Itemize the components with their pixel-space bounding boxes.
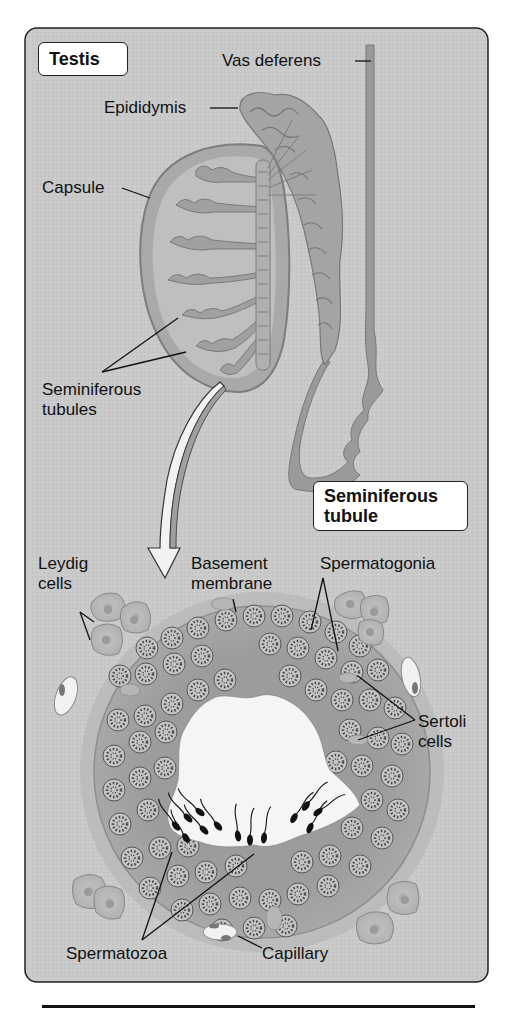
label-capsule: Capsule <box>42 178 104 198</box>
label-seminiferous-tubules: Seminiferous tubules <box>42 380 141 420</box>
label-leydig-cells: Leydig cells <box>38 554 88 594</box>
testis-title: Testis <box>49 49 100 69</box>
label-sertoli-cells: Sertoli cells <box>418 712 466 752</box>
testis-title-box: Testis <box>38 42 128 76</box>
label-basement-line1: Basement <box>191 554 272 574</box>
label-leydig-line1: Leydig <box>38 554 88 574</box>
testis-diagram: Testis Seminiferous tubule Vas deferens … <box>0 0 521 1017</box>
bottom-rule <box>42 1005 475 1008</box>
label-epididymis: Epididymis <box>104 98 186 118</box>
label-spermatogonia: Spermatogonia <box>320 554 435 574</box>
label-seminiferous-tubules-line1: Seminiferous <box>42 380 141 400</box>
tubule-title-box: Seminiferous tubule <box>313 481 468 531</box>
label-sertoli-line1: Sertoli <box>418 712 466 732</box>
label-sertoli-line2: cells <box>418 732 466 752</box>
label-basement-membrane: Basement membrane <box>191 554 272 594</box>
tubule-title-line2: tubule <box>324 506 457 526</box>
label-capillary: Capillary <box>262 944 328 964</box>
label-seminiferous-tubules-line2: tubules <box>42 400 141 420</box>
label-basement-line2: membrane <box>191 574 272 594</box>
label-spermatozoa: Spermatozoa <box>66 944 167 964</box>
label-vas-deferens: Vas deferens <box>222 51 321 71</box>
label-leydig-line2: cells <box>38 574 88 594</box>
tubule-title-line1: Seminiferous <box>324 486 457 506</box>
